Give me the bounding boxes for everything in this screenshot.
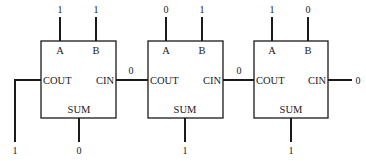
adder-1-cout-wire [15,80,41,142]
adder-1-sum-value: 0 [77,145,82,156]
carry-link-1-2-value: 0 [129,65,134,76]
full-adder-2: 0 1 A B COUT CIN SUM 1 [148,4,223,156]
adder-3-sum-value: 1 [289,145,294,156]
adder-1-a-value: 1 [58,4,63,15]
adder-1-cout-label: COUT [43,75,72,86]
adder-1-b-label: B [92,45,99,56]
adder-3-sum-label: SUM [280,104,303,115]
adder-2-sum-label: SUM [174,104,197,115]
full-adder-3: 1 0 A B COUT CIN SUM 1 0 [254,4,361,156]
carry-link-2-3-value: 0 [237,65,242,76]
adder-1-cout-value: 1 [13,145,18,156]
adder-2-b-label: B [198,45,205,56]
adder-2-a-value: 0 [164,4,169,15]
adder-1-cin-label: CIN [96,75,115,86]
adder-1-sum-label: SUM [68,104,91,115]
adder-1-b-value: 1 [94,4,99,15]
adder-3-a-label: A [268,45,276,56]
adder-3-cin-value: 0 [356,75,361,86]
adder-1-a-label: A [56,45,64,56]
adder-2-cin-label: CIN [203,75,222,86]
adder-2-a-label: A [162,45,170,56]
adder-3-b-label: B [304,45,311,56]
adder-3-b-value: 0 [306,4,311,15]
adder-2-cout-label: COUT [150,75,179,86]
full-adder-1: 1 1 A B COUT CIN SUM 1 0 [13,4,117,156]
adder-3-cin-label: CIN [308,75,327,86]
adder-3-a-value: 1 [270,4,275,15]
adder-2-b-value: 1 [200,4,205,15]
adder-2-sum-value: 1 [183,145,188,156]
adder-3-cout-label: COUT [256,75,285,86]
adder-diagram: 1 1 A B COUT CIN SUM 1 0 0 0 1 A B COUT … [0,0,366,161]
